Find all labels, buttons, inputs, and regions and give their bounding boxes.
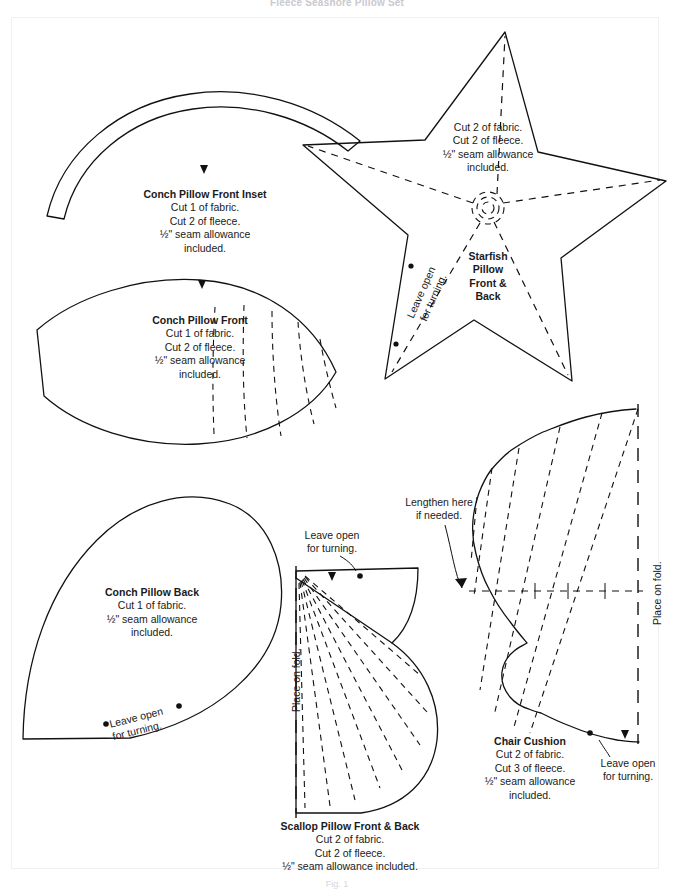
- label-starfish-title: Starfish Pillow Front & Back: [448, 250, 528, 304]
- label-line: included.: [390, 161, 586, 174]
- label-title-line: Pillow: [448, 263, 528, 276]
- label-conch-front-inset: Conch Pillow Front Inset Cut 1 of fabric…: [105, 188, 305, 255]
- label-line: Cut 2 of fabric.: [470, 748, 590, 761]
- label-line: included.: [100, 368, 300, 381]
- stitch-dot: [103, 721, 109, 727]
- label-line: Cut 1 of fabric.: [105, 201, 305, 214]
- pattern-sheet: Fleece Seashore Pillow Set: [0, 0, 674, 891]
- figure-caption: Fig. 1: [0, 879, 674, 889]
- label-line: ½" seam allowance: [52, 613, 252, 626]
- label-line: ½" seam allowance: [390, 148, 586, 161]
- lengthen-leader: [445, 525, 467, 588]
- annotation-leave-open-chair: Leave open for turning.: [588, 757, 668, 783]
- annotation-line: Lengthen here: [384, 496, 494, 509]
- label-conch-back: Conch Pillow Back Cut 1 of fabric. ½" se…: [52, 586, 252, 640]
- notch-marker-inset: [200, 165, 208, 174]
- label-line: ½" seam allowance: [105, 228, 305, 241]
- label-line: ½" seam allowance: [100, 354, 300, 367]
- label-line: Cut 2 of fabric.: [390, 121, 586, 134]
- label-scallop: Scallop Pillow Front & Back Cut 2 of fab…: [244, 820, 456, 874]
- notch-marker-chair: [621, 730, 629, 739]
- label-title: Scallop Pillow Front & Back: [244, 820, 456, 833]
- annotation-line: Place on fold.: [651, 561, 663, 625]
- annotation-line: for turning.: [292, 542, 372, 555]
- label-title: Chair Cushion: [470, 735, 590, 748]
- label-line: Cut 2 of fleece.: [105, 215, 305, 228]
- annotation-line: Place on fold.: [290, 648, 302, 712]
- piece-scallop-shape: [296, 566, 438, 818]
- label-line: Cut 3 of fleece.: [470, 762, 590, 775]
- notch-marker-scallop: [328, 572, 336, 581]
- label-line: ½" seam allowance included.: [244, 860, 456, 873]
- label-line: included.: [52, 626, 252, 639]
- piece-starfish-shape: [303, 32, 666, 381]
- label-title: Conch Pillow Front: [100, 314, 300, 327]
- label-chair-cushion: Chair Cushion Cut 2 of fabric. Cut 3 of …: [470, 735, 590, 802]
- annotation-line: Leave open: [292, 529, 372, 542]
- label-title-line: Starfish: [448, 250, 528, 263]
- label-conch-front: Conch Pillow Front Cut 1 of fabric. Cut …: [100, 314, 300, 381]
- label-title-line: Front &: [448, 277, 528, 290]
- annotation-line: for turning.: [588, 770, 668, 783]
- annotation-place-on-fold-scallop: Place on fold.: [290, 648, 302, 712]
- annotation-line: if needed.: [384, 509, 494, 522]
- label-line: Cut 2 of fabric.: [244, 833, 456, 846]
- label-title-line: Back: [448, 290, 528, 303]
- stitch-dot: [408, 263, 413, 268]
- annotation-place-on-fold-chair: Place on fold.: [651, 561, 663, 625]
- piece-chair-cushion-shape: [469, 404, 643, 744]
- label-title: Conch Pillow Front Inset: [105, 188, 305, 201]
- label-line: Cut 1 of fabric.: [100, 327, 300, 340]
- label-line: Cut 2 of fleece.: [390, 134, 586, 147]
- notch-marker-front: [198, 280, 206, 289]
- annotation-line: Leave open: [588, 757, 668, 770]
- annotation-lengthen-here: Lengthen here if needed.: [384, 496, 494, 522]
- label-line: included.: [105, 242, 305, 255]
- starfish-center-mid: [477, 197, 499, 219]
- starfish-center-inner: [482, 202, 494, 214]
- annotation-leave-open-scallop: Leave open for turning.: [292, 529, 372, 555]
- label-starfish-cutinfo: Cut 2 of fabric. Cut 2 of fleece. ½" sea…: [390, 121, 586, 175]
- chair-leaveopen-leader: [599, 740, 610, 757]
- label-line: Cut 1 of fabric.: [52, 599, 252, 612]
- stitch-dot: [357, 573, 363, 579]
- label-title: Conch Pillow Back: [52, 586, 252, 599]
- label-line: Cut 2 of fleece.: [244, 847, 456, 860]
- label-line: ½" seam allowance: [470, 775, 590, 788]
- label-line: Cut 2 of fleece.: [100, 341, 300, 354]
- label-line: included.: [470, 789, 590, 802]
- scallop-leaveopen-leader: [340, 556, 356, 571]
